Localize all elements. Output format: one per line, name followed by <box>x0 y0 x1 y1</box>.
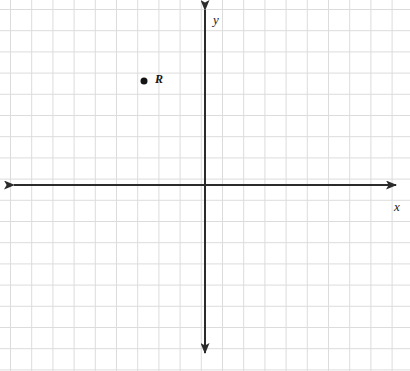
y-axis-label: y <box>213 13 219 26</box>
x-axis-label: x <box>394 200 400 213</box>
plotted-points-layer <box>0 0 410 371</box>
point-label-r: R <box>155 73 163 85</box>
plotted-point-r <box>141 78 148 85</box>
coordinate-plane-figure: y x R <box>0 0 410 371</box>
